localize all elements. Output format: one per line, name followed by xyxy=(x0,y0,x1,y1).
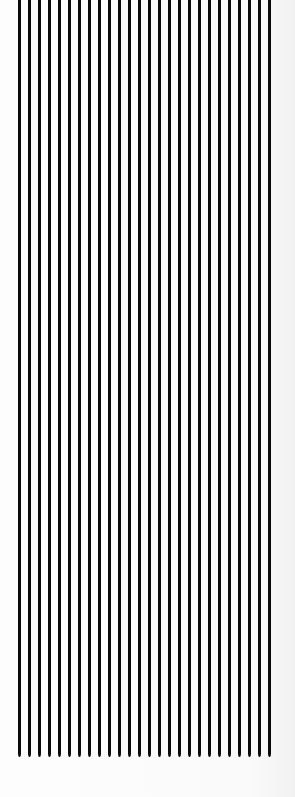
vertical-line xyxy=(168,0,171,757)
vertical-line xyxy=(198,0,201,757)
vertical-line xyxy=(58,0,61,757)
vertical-line xyxy=(68,0,71,757)
vertical-line xyxy=(258,0,261,757)
vertical-line xyxy=(218,0,221,757)
vertical-line xyxy=(28,0,31,757)
vertical-line xyxy=(208,0,211,757)
vertical-line xyxy=(78,0,81,757)
vertical-line xyxy=(148,0,151,757)
vertical-line xyxy=(238,0,241,757)
line-pattern-canvas xyxy=(0,0,295,797)
vertical-line xyxy=(88,0,91,757)
vertical-line xyxy=(268,0,271,757)
vertical-line xyxy=(38,0,41,757)
vertical-line xyxy=(228,0,231,757)
vertical-line xyxy=(48,0,51,757)
vertical-line xyxy=(248,0,251,757)
vertical-line xyxy=(178,0,181,757)
vertical-line xyxy=(188,0,191,757)
vertical-line xyxy=(118,0,121,757)
vertical-line xyxy=(108,0,111,757)
vertical-line xyxy=(98,0,101,757)
vertical-line xyxy=(158,0,161,757)
vertical-line xyxy=(128,0,131,757)
vertical-line xyxy=(138,0,141,757)
vertical-line xyxy=(18,0,21,757)
